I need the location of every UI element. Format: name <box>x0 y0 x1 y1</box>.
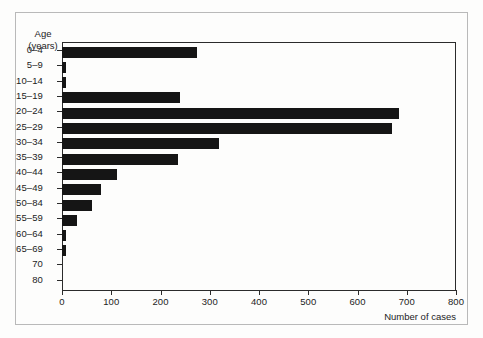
bar <box>62 123 392 134</box>
y-axis-label: 20–24 <box>16 105 43 116</box>
x-axis-line <box>62 290 456 291</box>
y-axis-tick <box>57 264 62 265</box>
bar <box>62 138 219 149</box>
y-axis-label: 60–64 <box>16 228 43 239</box>
x-axis-title: Number of cases <box>384 311 456 322</box>
bar <box>62 154 178 165</box>
y-axis-tick <box>57 81 62 82</box>
y-axis-label: 5–9 <box>27 59 43 70</box>
y-axis-label: 25–29 <box>16 121 43 132</box>
y-axis-header-line1: Age <box>20 28 66 40</box>
y-axis-label: 70 <box>32 258 43 269</box>
bar <box>62 47 197 58</box>
y-axis-tick <box>57 188 62 189</box>
bar <box>62 230 66 241</box>
y-axis-label: 45–49 <box>16 182 43 193</box>
bar <box>62 169 117 180</box>
x-axis-label: 700 <box>399 296 415 307</box>
y-axis-label: 80 <box>32 274 43 285</box>
x-axis-tick <box>456 290 457 295</box>
y-axis-tick <box>57 218 62 219</box>
bar <box>62 184 101 195</box>
bar <box>62 62 66 73</box>
x-axis-label: 100 <box>103 296 119 307</box>
bar <box>62 108 399 119</box>
y-axis-label: 40–44 <box>16 166 43 177</box>
x-axis-label: 0 <box>59 296 64 307</box>
y-axis-tick <box>57 96 62 97</box>
y-axis-label: 35–39 <box>16 151 43 162</box>
y-axis-label: 0–4 <box>27 44 43 55</box>
bar <box>62 92 180 103</box>
y-axis-label: 55–59 <box>16 212 43 223</box>
y-axis-labels: 0–45–910–1415–1920–2425–2930–3435–3940–4… <box>0 42 55 302</box>
x-axis-label: 300 <box>202 296 218 307</box>
y-axis-tick <box>57 50 62 51</box>
bar <box>62 200 92 211</box>
x-axis-label: 800 <box>448 296 464 307</box>
y-axis-tick <box>57 249 62 250</box>
y-axis-label: 65–69 <box>16 243 43 254</box>
y-axis-tick <box>57 280 62 281</box>
y-axis-tick <box>57 203 62 204</box>
y-axis-tick <box>57 142 62 143</box>
y-axis-tick <box>57 172 62 173</box>
plot-area <box>62 42 456 290</box>
y-axis-tick <box>57 111 62 112</box>
y-axis-label: 10–14 <box>16 75 43 86</box>
bar <box>62 245 66 256</box>
plot-frame <box>62 42 456 290</box>
y-axis-tick <box>57 157 62 158</box>
x-axis-label: 600 <box>350 296 366 307</box>
y-axis-tick <box>57 65 62 66</box>
bar <box>62 215 77 226</box>
y-axis-label: 15–19 <box>16 90 43 101</box>
y-axis-label: 50–84 <box>16 197 43 208</box>
x-axis-label: 400 <box>251 296 267 307</box>
x-axis-labels: 0100200300400500600700800 <box>0 296 483 310</box>
y-axis-label: 30–34 <box>16 136 43 147</box>
bar <box>62 77 66 88</box>
x-axis-label: 500 <box>300 296 316 307</box>
y-axis-tick <box>57 234 62 235</box>
x-axis-label: 200 <box>153 296 169 307</box>
y-axis-tick <box>57 127 62 128</box>
